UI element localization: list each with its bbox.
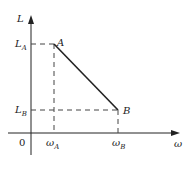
x-axis-arrow-icon xyxy=(171,130,180,136)
y-axis-arrow-icon xyxy=(28,15,34,24)
x-axis-label: ω xyxy=(174,138,182,149)
segment-ab xyxy=(54,44,118,110)
diagram-canvas: L ω 0 LA LB ωA ωB A B xyxy=(0,0,190,169)
tick-label-wb: ωB xyxy=(112,137,125,151)
origin-label: 0 xyxy=(19,137,25,148)
point-label-a: A xyxy=(56,37,64,48)
tick-label-wa: ωA xyxy=(46,137,59,151)
tick-label-la: LA xyxy=(14,38,27,52)
tick-label-lb: LB xyxy=(14,104,27,118)
y-axis-label: L xyxy=(16,13,24,24)
point-label-b: B xyxy=(122,105,130,116)
